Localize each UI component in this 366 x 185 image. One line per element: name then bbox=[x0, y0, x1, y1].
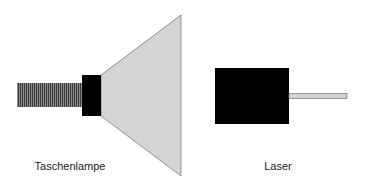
flashlight-head bbox=[82, 75, 101, 116]
laser-label: Laser bbox=[264, 160, 292, 172]
laser-beam bbox=[289, 94, 347, 99]
flashlight-handle bbox=[17, 83, 83, 107]
flashlight-light-cone bbox=[101, 15, 181, 176]
laser-body bbox=[215, 68, 289, 124]
flashlight-label: Taschenlampe bbox=[35, 160, 106, 172]
diagram-canvas bbox=[0, 0, 366, 185]
flashlight-figure bbox=[17, 15, 181, 176]
laser-figure bbox=[215, 68, 347, 124]
